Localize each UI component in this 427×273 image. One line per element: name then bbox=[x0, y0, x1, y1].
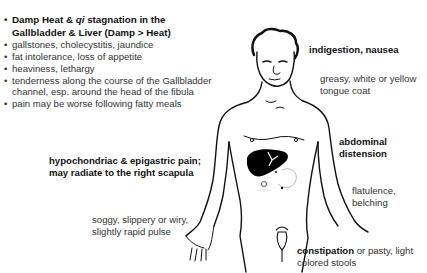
neck-left bbox=[248, 82, 262, 102]
label-tongue: greasy, white or yellow tongue coat bbox=[320, 73, 427, 96]
left-eye bbox=[263, 61, 271, 62]
liver bbox=[247, 149, 288, 176]
label-flatulence: flatulence, belching bbox=[352, 185, 422, 208]
label-stools: constipation or pasty, light colored sto… bbox=[297, 245, 427, 268]
right-inner-arm bbox=[318, 142, 338, 226]
list-item: heaviness, lethargy bbox=[4, 63, 219, 75]
neck-right bbox=[290, 81, 303, 101]
label-pulse: soggy, slippery or wiry, slightly rapid … bbox=[92, 214, 212, 237]
face bbox=[257, 52, 295, 86]
label-pain: hypochondriac & epigastric pain; may rad… bbox=[49, 155, 219, 178]
flower-icon bbox=[276, 227, 288, 262]
mouth bbox=[269, 79, 280, 80]
nose bbox=[273, 66, 280, 74]
right-eye bbox=[279, 61, 287, 62]
torso-left bbox=[229, 142, 246, 272]
label-indigestion: indigestion, nausea bbox=[309, 44, 399, 56]
list-item: tenderness along the course of the Gallb… bbox=[4, 75, 219, 99]
list-item: fat intolerance, loss of appetite bbox=[4, 51, 219, 63]
list-item: pain may be worse following fatty meals bbox=[4, 98, 219, 110]
list-heading: Damp Heat & qi stagnation in the Gallbla… bbox=[4, 14, 219, 39]
label-abdominal: abdominal distension bbox=[339, 136, 409, 159]
list-item: gallstones, cholecystitis, jaundice bbox=[4, 39, 219, 51]
symptom-list: Damp Heat & qi stagnation in the Gallbla… bbox=[4, 14, 219, 110]
hair bbox=[252, 29, 297, 58]
